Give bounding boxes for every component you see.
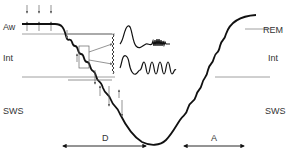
sleep-stage-transition-diagram: Aw Int SWS REM Int SWS D A	[0, 0, 290, 155]
label-int-right: Int	[268, 53, 279, 63]
label-ascent: A	[211, 133, 217, 143]
magnification-box	[68, 34, 112, 80]
label-sws-left: SWS	[3, 106, 24, 116]
label-aw: Aw	[3, 22, 16, 32]
label-descent: D	[102, 133, 109, 143]
label-sws-right: SWS	[265, 106, 286, 116]
sleep-depth-curve	[22, 15, 256, 145]
eeg-slow-wave-waveform	[120, 56, 176, 74]
eeg-spindle-waveform	[120, 26, 170, 48]
label-int-left: Int	[3, 53, 14, 63]
aw-input-arrows	[27, 5, 51, 31]
label-rem: REM	[263, 25, 283, 35]
zoomed-trace	[112, 34, 114, 74]
